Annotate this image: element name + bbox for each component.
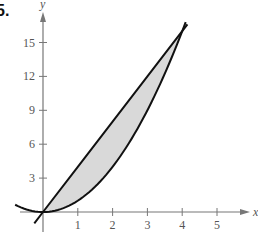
- line-curve: [34, 24, 187, 223]
- y-tick-label: 6: [29, 137, 35, 151]
- x-tick-label: 3: [144, 218, 150, 232]
- problem-label: 5.: [0, 2, 9, 19]
- curves: [15, 22, 187, 223]
- x-tick-label: 1: [75, 218, 81, 232]
- y-tick-label: 15: [23, 36, 35, 50]
- y-tick-label: 3: [29, 171, 35, 185]
- x-axis-arrow-icon: [240, 209, 250, 215]
- plot-canvas: 5. 123453691215 x y: [0, 0, 258, 244]
- x-axis-label: x: [252, 205, 258, 219]
- y-axis-arrow-icon: [40, 12, 46, 22]
- y-tick-label: 9: [29, 103, 35, 117]
- x-tick-label: 2: [110, 218, 116, 232]
- y-axis-label: y: [39, 0, 46, 11]
- parabola-curve: [15, 22, 186, 212]
- y-tick-label: 12: [23, 69, 35, 83]
- x-tick-label: 5: [214, 218, 220, 232]
- x-tick-label: 4: [179, 218, 185, 232]
